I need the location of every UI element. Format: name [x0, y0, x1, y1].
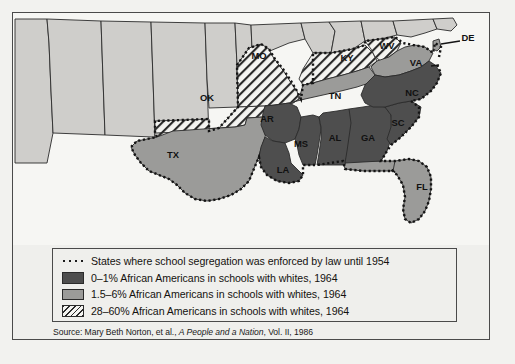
source-suffix: , Vol. II, 1986: [263, 327, 312, 337]
hatched-swatch-icon: [62, 305, 84, 317]
map-canvas: MOOKKYWVVATNNCSCGAALMSARLATXFLDE: [13, 13, 489, 245]
source-title: A People and a Nation: [179, 327, 264, 337]
state-label-al: AL: [329, 132, 342, 143]
legend-row-segregation-law: States where school segregation was enfo…: [62, 253, 456, 270]
legend-label-0-to-1-percent: 0–1% African Americans in schools with w…: [91, 272, 338, 284]
state-label-wv: WV: [379, 40, 395, 51]
state-label-tn: TN: [329, 90, 342, 101]
legend-row-1-5-to-6-percent: 1.5–6% African Americans in schools with…: [62, 286, 456, 303]
state-label-sc: SC: [391, 117, 404, 128]
state-label-ms: MS: [294, 138, 308, 149]
dark-gray-swatch-icon: [62, 272, 84, 284]
legend-label-1-5-to-6-percent: 1.5–6% African Americans in schools with…: [91, 288, 346, 300]
state-label-mo: MO: [251, 50, 266, 61]
figure-root: MOOKKYWVVATNNCSCGAALMSARLATXFLDE States …: [0, 0, 515, 364]
legend-label-segregation-law: States where school segregation was enfo…: [91, 255, 389, 267]
source-citation: Source: Mary Beth Norton, et al., A Peop…: [53, 327, 313, 337]
dotted-boundary-swatch-icon: [62, 256, 84, 268]
map-legend: States where school segregation was enfo…: [52, 248, 457, 322]
state-label-ky: KY: [340, 52, 354, 63]
state-label-ga: GA: [361, 132, 375, 143]
state-label-tx: TX: [167, 149, 180, 160]
legend-row-28-to-60-percent: 28–60% African Americans in schools with…: [62, 303, 456, 320]
state-label-la: LA: [277, 164, 290, 175]
state-label-fl: FL: [416, 181, 428, 192]
medium-gray-swatch-icon: [62, 289, 84, 301]
source-prefix: Source: Mary Beth Norton, et al.,: [53, 327, 179, 337]
state-label-ok: OK: [200, 92, 214, 103]
state-label-ar: AR: [260, 113, 274, 124]
us-south-map: MOOKKYWVVATNNCSCGAALMSARLATXFLDE: [13, 13, 489, 245]
state-label-de: DE: [461, 32, 474, 43]
state-label-nc: NC: [405, 87, 419, 98]
legend-row-0-to-1-percent: 0–1% African Americans in schools with w…: [62, 270, 456, 287]
legend-label-28-to-60-percent: 28–60% African Americans in schools with…: [91, 305, 349, 317]
state-label-va: VA: [410, 57, 423, 68]
